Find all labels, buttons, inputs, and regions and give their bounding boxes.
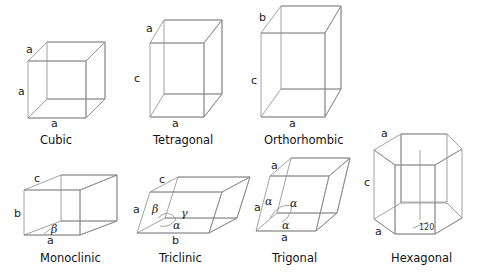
orthorhombic-label-top: b bbox=[259, 11, 266, 24]
trigonal-angle-alpha-1: α bbox=[265, 195, 273, 208]
trigonal-label-top: a bbox=[271, 159, 278, 172]
monoclinic-label-side: b bbox=[14, 207, 21, 220]
monoclinic-label-top: c bbox=[34, 172, 40, 185]
orthorhombic-name: Orthorhombic bbox=[264, 133, 343, 147]
hexagonal-angle-value: 120 bbox=[419, 223, 434, 232]
hexagonal-cell bbox=[374, 134, 462, 234]
triclinic-label-side: a bbox=[133, 203, 140, 216]
orthorhombic-label-side: c bbox=[251, 74, 257, 87]
hexagonal-name: Hexagonal bbox=[391, 251, 452, 265]
hexagonal-label-top: a bbox=[381, 127, 388, 140]
monoclinic-name: Monoclinic bbox=[40, 251, 101, 265]
cubic-cell bbox=[28, 42, 105, 118]
trigonal-name: Trigonal bbox=[271, 251, 317, 265]
trigonal-label-side: a bbox=[254, 201, 261, 214]
tetragonal-label-bottom: a bbox=[172, 117, 179, 130]
hexagonal-label-side: c bbox=[364, 176, 370, 189]
hexagonal-label-bottom: a bbox=[375, 225, 382, 238]
trigonal-angle-alpha-2: α bbox=[290, 197, 298, 210]
triclinic-angle-alpha: α bbox=[173, 219, 181, 232]
cubic-name: Cubic bbox=[40, 133, 72, 147]
orthorhombic-cell bbox=[261, 6, 341, 117]
cubic-label-bottom: a bbox=[51, 117, 58, 130]
triclinic-angle-gamma: γ bbox=[181, 207, 188, 220]
orthorhombic-label-bottom: a bbox=[289, 117, 296, 130]
tetragonal-label-side: c bbox=[134, 72, 140, 85]
crystal-systems-diagram: a a a Cubic a c a Orthorhombic Tetragona… bbox=[0, 0, 489, 274]
triclinic-label-bottom: b bbox=[172, 234, 179, 247]
cubic-label-top: a bbox=[26, 43, 33, 56]
trigonal-label-bottom: a bbox=[281, 231, 288, 244]
triclinic-name: Triclinic bbox=[158, 251, 202, 265]
monoclinic-label-bottom: a bbox=[47, 234, 54, 247]
cubic-label-side: a bbox=[18, 85, 25, 98]
triclinic-angle-beta: β bbox=[151, 203, 158, 216]
tetragonal-name-text: Tetragonal bbox=[152, 133, 213, 147]
tetragonal-cell bbox=[150, 20, 222, 117]
tetragonal-label-top: a bbox=[146, 22, 153, 35]
triclinic-label-top: c bbox=[159, 173, 165, 186]
